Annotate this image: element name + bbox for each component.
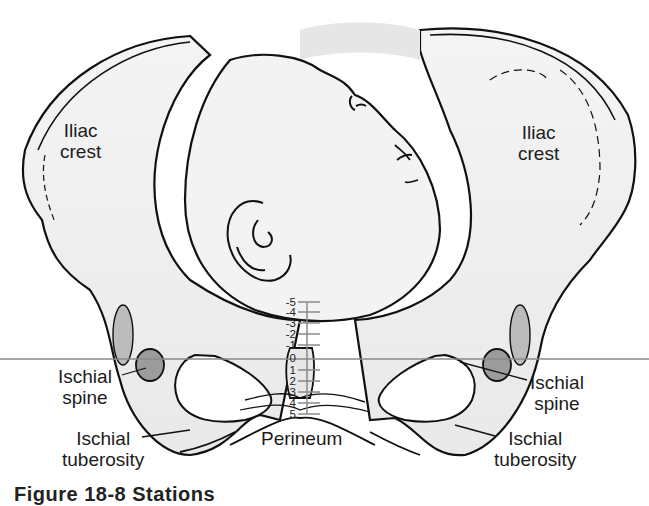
left-ischial-spine-shape	[136, 349, 164, 381]
right-ischial-spine-shape	[483, 349, 511, 381]
label-iliac-crest-left: Iliac crest	[60, 120, 101, 162]
station-tick-0: 0	[282, 353, 296, 364]
label-perineum: Perineum	[261, 428, 342, 449]
label-iliac-crest-right: Iliac crest	[518, 122, 559, 164]
label-ischial-tuberosity-right: Ischial tuberosity	[494, 428, 576, 470]
station-tick-5: 5	[282, 409, 296, 420]
station-tick--1: -1	[282, 340, 296, 351]
fetal-head	[185, 55, 440, 321]
label-ischial-tuberosity-left: Ischial tuberosity	[62, 428, 144, 470]
label-ischial-spine-left: Ischial spine	[58, 366, 112, 408]
label-ischial-spine-right: Ischial spine	[530, 372, 584, 414]
figure-caption: Figure 18-8 Stations	[14, 483, 215, 506]
